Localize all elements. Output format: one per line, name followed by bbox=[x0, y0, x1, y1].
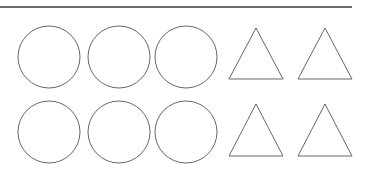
triangle-shape-4 bbox=[298, 104, 352, 156]
circle-shape-1 bbox=[18, 26, 80, 88]
triangle-shape-2 bbox=[298, 28, 352, 79]
circle-shape-2 bbox=[88, 26, 150, 88]
row-2-group bbox=[18, 101, 352, 163]
circle-shape-3 bbox=[155, 26, 217, 88]
triangle-shape-3 bbox=[229, 104, 283, 156]
circle-shape-5 bbox=[88, 101, 150, 163]
circle-shape-4 bbox=[18, 101, 80, 163]
circle-shape-6 bbox=[155, 101, 217, 163]
shapes-canvas bbox=[0, 0, 370, 179]
row-1-group bbox=[18, 26, 352, 88]
shapes-figure: Shapes figure bbox=[0, 0, 370, 179]
triangle-shape-1 bbox=[229, 28, 283, 79]
